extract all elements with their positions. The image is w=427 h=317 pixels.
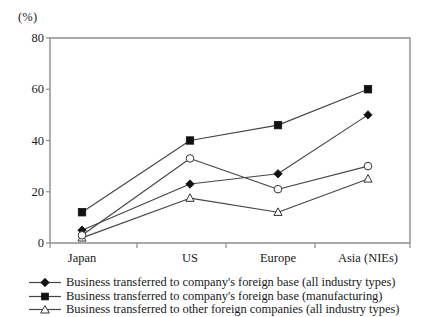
- filled-square-icon: [28, 290, 62, 303]
- datapoint-1-1: [186, 137, 193, 144]
- plot-area: 80 60 40 20 0 Japan US Europe Asia (NIEs…: [0, 0, 427, 270]
- filled-diamond-icon: [28, 276, 62, 289]
- datapoint-2-1: [186, 194, 194, 202]
- datapoint-1-3: [364, 86, 371, 93]
- plot-frame: [50, 38, 410, 243]
- y-tick-label-0: 0: [8, 237, 44, 250]
- datapoint-0-2: [274, 170, 282, 178]
- y-tick-label-20: 20: [8, 186, 44, 199]
- legend-item-label-2: Business transferred to other foreign co…: [66, 303, 399, 317]
- series-line-1: [82, 89, 368, 212]
- datapoint-1-2: [274, 121, 281, 128]
- legend-item-label-1: Business transferred to company's foreig…: [66, 290, 382, 304]
- legend-item-0: Business transferred to company's foreig…: [0, 276, 427, 290]
- datapoint-0-3: [364, 111, 372, 119]
- chart-figure: (%) 80 60 40 20 0 Japan US Europe Asia (…: [0, 0, 427, 317]
- chart-canvas: [0, 0, 427, 270]
- datapoint-2-3: [364, 175, 372, 183]
- series-line-0: [82, 115, 368, 230]
- y-tick-label-60: 60: [8, 83, 44, 96]
- datapoint-3-1: [186, 155, 194, 163]
- datapoint-3-0: [78, 232, 86, 240]
- y-tick-label-80: 80: [8, 32, 44, 45]
- datapoint-3-2: [274, 185, 282, 193]
- series-line-2: [82, 179, 368, 238]
- legend-item-1: Business transferred to company's foreig…: [0, 290, 427, 304]
- datapoint-3-3: [364, 162, 372, 170]
- y-tick-label-40: 40: [8, 134, 44, 147]
- series-line-3: [82, 158, 368, 235]
- x-tick-label-europe: Europe: [260, 252, 296, 265]
- x-tick-label-us: US: [182, 252, 198, 265]
- legend-item-2: Business transferred to other foreign co…: [0, 303, 427, 317]
- datapoint-1-0: [78, 209, 85, 216]
- datapoint-0-1: [186, 180, 194, 188]
- legend-item-label-0: Business transferred to company's foreig…: [66, 276, 395, 290]
- chart-legend: Business transferred to company's foreig…: [0, 276, 427, 317]
- x-tick-label-japan: Japan: [68, 252, 96, 265]
- open-triangle-icon: [28, 303, 62, 316]
- x-tick-label-asia-nies: Asia (NIEs): [338, 252, 398, 265]
